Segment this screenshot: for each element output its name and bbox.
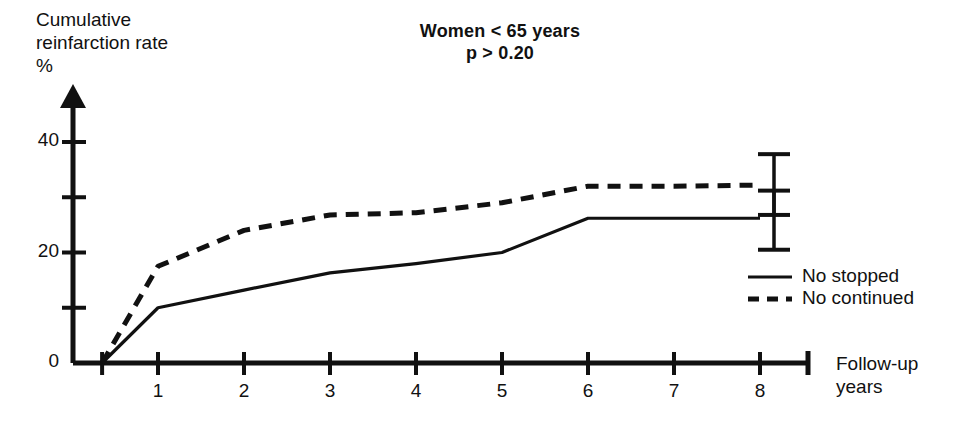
x-tick-label: 7	[659, 380, 689, 402]
legend-label-no-continued: No continued	[802, 287, 914, 309]
series-line-no-stopped	[102, 218, 760, 363]
x-tick-label: 1	[143, 380, 173, 402]
error-bar-no-continued	[758, 154, 790, 215]
x-tick-label: 5	[487, 380, 517, 402]
x-tick-label: 6	[573, 380, 603, 402]
series-group	[102, 185, 760, 363]
x-tick-label: 8	[745, 380, 775, 402]
axes-group	[60, 84, 808, 375]
chart-figure: Cumulative reinfarction rate % Women < 6…	[0, 0, 968, 425]
y-axis-arrow	[60, 84, 86, 108]
x-tick-label: 2	[229, 380, 259, 402]
plot-area	[0, 0, 968, 425]
legend-marks	[748, 277, 792, 299]
x-tick-label: 3	[315, 380, 345, 402]
y-tick-label: 0	[13, 350, 59, 372]
y-tick-label: 20	[13, 240, 59, 262]
y-tick-label: 40	[13, 129, 59, 151]
legend-label-no-stopped: No stopped	[802, 265, 899, 287]
error-bars-group	[758, 154, 790, 250]
series-line-no-continued	[102, 185, 760, 363]
x-tick-label: 4	[401, 380, 431, 402]
